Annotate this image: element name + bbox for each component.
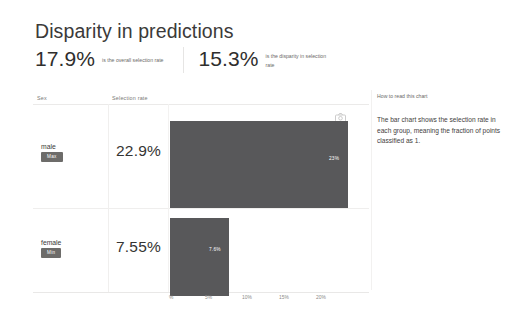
metrics-row: 17.9% is the overall selection rate 15.3… [35, 47, 328, 73]
status-badge-min: Min [41, 248, 61, 258]
column-header-selection-rate: Selection rate [112, 95, 148, 101]
column-header-sex: Sex [37, 95, 47, 101]
bar-female[interactable] [170, 218, 229, 296]
bar-male[interactable] [170, 121, 348, 208]
info-panel-title: How to read this chart [377, 93, 427, 99]
info-panel-divider [371, 90, 372, 290]
status-badge-max: Max [41, 152, 63, 162]
metric-caption: is the disparity in selection rate [266, 49, 328, 68]
bar-value-label-male: 23% [329, 156, 339, 161]
group-label-female: female [41, 239, 61, 246]
bar-value-label-female: 7.6% [209, 247, 221, 252]
axis-tick: % [169, 295, 173, 300]
page-title: Disparity in predictions [35, 20, 234, 43]
metric-value: 17.9% [35, 47, 95, 71]
group-label-male: male [41, 143, 56, 150]
axis-tick: 20% [316, 295, 326, 300]
metrics-divider [183, 47, 184, 73]
info-panel-body: The bar chart shows the selection rate i… [377, 115, 509, 147]
dashboard-root: Disparity in predictions 17.9% is the ov… [0, 0, 522, 326]
axis-tick: 5% [205, 295, 212, 300]
x-axis: % 5% 10% 15% 20% [169, 295, 374, 309]
bar-chart: 23% 7.6% [169, 105, 369, 292]
selection-rate-male: 22.9% [116, 142, 161, 160]
selection-rate-female: 7.55% [116, 238, 161, 256]
axis-tick: 15% [279, 295, 289, 300]
metric-disparity: 15.3% is the disparity in selection rate [198, 47, 327, 71]
metric-value: 15.3% [198, 47, 258, 71]
axis-tick: 10% [242, 295, 252, 300]
metric-overall-selection-rate: 17.9% is the overall selection rate [35, 47, 163, 71]
column-divider [108, 104, 109, 292]
metric-caption: is the overall selection rate [102, 53, 163, 64]
